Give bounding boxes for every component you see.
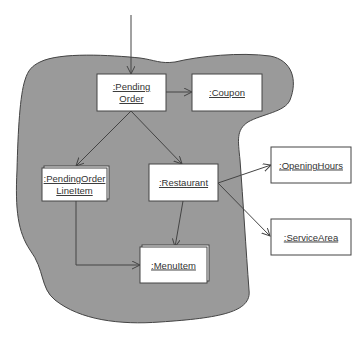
- object-service-area[interactable]: :ServiceArea: [271, 219, 351, 255]
- object-pending-order-lineitem[interactable]: :PendingOrderLineItem: [42, 166, 109, 201]
- object-label: :Coupon: [209, 87, 245, 98]
- collaboration-diagram: :PendingOrder:Coupon:PendingOrderLineIte…: [0, 0, 358, 341]
- object-label: LineItem: [56, 185, 93, 196]
- object-menu-item[interactable]: :MenuItem: [140, 245, 209, 283]
- object-label: :PendingOrder: [44, 173, 106, 184]
- object-opening-hours[interactable]: :OpeningHours: [271, 147, 351, 183]
- object-label: :OpeningHours: [279, 160, 343, 171]
- object-pending-order[interactable]: :PendingOrder: [97, 74, 166, 111]
- object-label: :ServiceArea: [284, 232, 339, 243]
- object-label: :Restaurant: [159, 177, 208, 188]
- object-coupon[interactable]: :Coupon: [192, 74, 262, 111]
- object-label: Order: [119, 93, 143, 104]
- object-label: :Pending: [113, 81, 151, 92]
- object-restaurant[interactable]: :Restaurant: [149, 164, 218, 201]
- object-label: :MenuItem: [151, 260, 196, 271]
